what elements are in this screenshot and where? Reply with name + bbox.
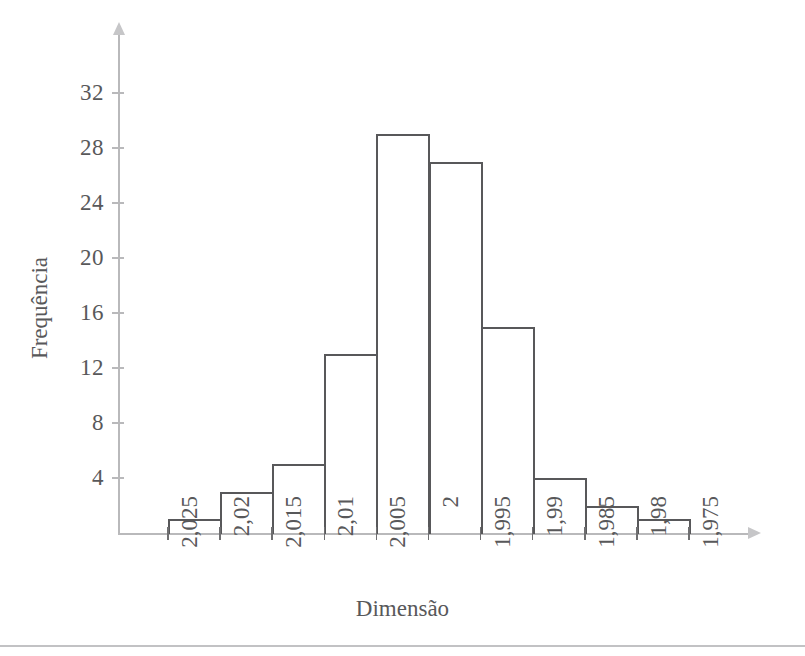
x-tick-mark [219,527,221,540]
x-tick-label: 2,025 [177,496,203,586]
y-tick-mark [112,147,124,149]
y-tick-label-text: 24 [0,191,104,214]
y-tick-mark [112,367,124,369]
y-axis-line [118,30,120,535]
x-tick-mark [167,527,169,540]
x-tick-mark [688,527,690,540]
y-tick-label-text: 12 [0,356,104,379]
x-tick-label: 1,975 [698,496,724,586]
x-tick-label: 2 [438,496,464,586]
y-tick-mark [112,422,124,424]
x-tick-mark [532,527,534,540]
x-axis-title: Dimensão [0,596,805,622]
x-tick-label: 2,015 [281,496,307,586]
x-tick-mark [271,527,273,540]
y-tick-label-text: 28 [0,136,104,159]
page-bottom-rule [0,645,805,647]
y-tick-mark [112,477,124,479]
y-tick-mark [112,257,124,259]
x-tick-mark [324,527,326,540]
x-tick-label: 1,985 [594,496,620,586]
y-tick-mark [112,92,124,94]
x-tick-mark [480,527,482,540]
x-tick-mark [428,527,430,540]
histogram-bar [376,134,430,534]
x-tick-label: 1,98 [646,496,672,586]
x-tick-mark [376,527,378,540]
x-tick-label: 2,02 [229,496,255,586]
x-tick-label: 1,99 [542,496,568,586]
x-tick-label: 2,005 [385,496,411,586]
y-axis-arrow-icon [113,22,125,35]
y-tick-label-text: 16 [0,301,104,324]
y-tick-label-text: 8 [0,411,104,434]
x-tick-mark [584,527,586,540]
histogram-figure: Frequência 48121620242832 2,0252,022,015… [0,0,805,656]
histogram-bar [429,162,483,534]
y-tick-mark [112,202,124,204]
x-tick-label: 2,01 [333,496,359,586]
x-tick-mark [636,527,638,540]
y-tick-label-text: 20 [0,246,104,269]
y-tick-label-text: 4 [0,466,104,489]
x-tick-label: 1,995 [490,496,516,586]
y-tick-label-text: 32 [0,81,104,104]
y-tick-mark [112,312,124,314]
x-axis-arrow-icon [748,527,761,539]
